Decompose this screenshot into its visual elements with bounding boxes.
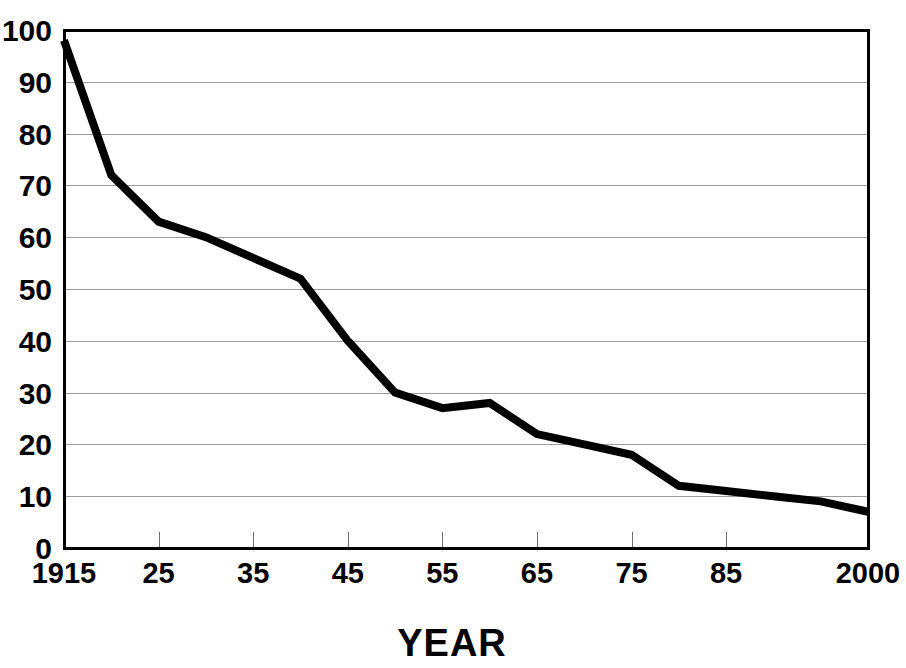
x-axis-tick-labels: 1915253545556575852000 <box>32 557 901 589</box>
x-axis-tick-label: 65 <box>521 557 553 589</box>
line-chart: 0102030405060708090100 19152535455565758… <box>0 0 906 668</box>
x-axis-tick-label: 55 <box>426 557 458 589</box>
x-axis-tick-label: 85 <box>710 557 742 589</box>
y-axis-tick-label: 90 <box>19 66 52 99</box>
x-axis-tick-label: 1915 <box>32 557 97 589</box>
y-axis-tick-label: 20 <box>19 428 52 461</box>
x-axis-tick-label: 25 <box>142 557 174 589</box>
y-axis-tick-label: 40 <box>19 325 52 358</box>
x-axis-tick-label: 75 <box>615 557 647 589</box>
y-axis-tick-label: 70 <box>19 169 52 202</box>
y-axis-tick-label: 30 <box>19 377 52 410</box>
chart-container: 0102030405060708090100 19152535455565758… <box>0 0 906 668</box>
gridlines <box>64 82 868 496</box>
y-axis-tick-label: 80 <box>19 118 52 151</box>
y-axis-tick-label: 10 <box>19 480 52 513</box>
y-axis-tick-label: 100 <box>2 14 52 47</box>
data-series-line <box>64 40 868 511</box>
x-axis-title: YEAR <box>397 622 507 664</box>
x-axis-tick-label: 2000 <box>836 557 901 589</box>
y-axis-tick-labels: 0102030405060708090100 <box>2 14 52 565</box>
x-axis-tick-label: 35 <box>237 557 269 589</box>
y-axis-tick-label: 60 <box>19 221 52 254</box>
x-axis-tick-label: 45 <box>332 557 364 589</box>
y-axis-tick-label: 50 <box>19 273 52 306</box>
x-tick-marks <box>160 532 727 548</box>
